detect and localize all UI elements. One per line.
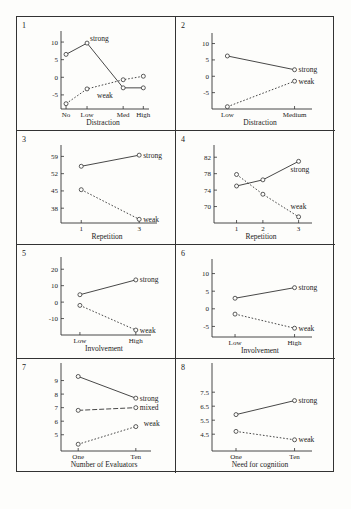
y-tick-label: -5: [203, 323, 209, 331]
series-line-strong: [235, 288, 295, 299]
x-axis-label: Involvement: [85, 344, 124, 353]
y-tick-label: 45: [51, 187, 59, 195]
x-tick-label: Low: [221, 111, 235, 119]
x-tick-label: No: [62, 111, 71, 119]
y-tick-label: 20: [51, 266, 59, 274]
series-label-strong: strong: [140, 394, 159, 403]
data-point-weak: [297, 215, 301, 219]
series-line-weak: [236, 431, 295, 439]
series-label-weak: weak: [299, 324, 315, 333]
y-tick-label: 10: [51, 39, 59, 47]
data-point-strong: [134, 396, 138, 400]
y-tick-label: -10: [49, 315, 59, 323]
series-line-weak: [235, 314, 295, 328]
series-line-strong: [236, 401, 295, 415]
y-tick-label: 70: [204, 203, 212, 211]
series-label-strong: strong: [291, 165, 310, 174]
x-axis-label: Involvement: [241, 346, 280, 355]
data-point-strong: [293, 68, 297, 72]
series-label-weak: weak: [299, 77, 315, 86]
x-axis-label: Distraction: [86, 118, 120, 127]
y-tick-label: 5: [55, 431, 59, 439]
y-tick-label: 6.5: [200, 403, 209, 411]
data-point-weak: [293, 438, 297, 442]
panel-4: 482787470123Repetitionstrongweak: [176, 131, 335, 245]
series-label-weak: weak: [291, 202, 307, 211]
y-tick-label: 5.5: [200, 417, 209, 425]
data-point-weak: [293, 79, 297, 83]
x-axis-label: Need for cognition: [232, 460, 289, 469]
y-tick-label: 52: [51, 170, 59, 178]
series-line-weak: [78, 427, 136, 445]
series-line-weak: [80, 305, 136, 330]
series-label-strong: strong: [299, 396, 318, 405]
series-line-strong: [66, 43, 143, 88]
y-tick-label: 38: [51, 205, 59, 213]
data-point-weak: [85, 87, 89, 91]
data-point-strong: [76, 374, 80, 378]
data-point-weak: [134, 425, 138, 429]
data-point-weak: [225, 105, 229, 109]
data-point-strong: [64, 52, 68, 56]
x-tick-label: High: [129, 337, 144, 345]
panel-number: 6: [181, 249, 185, 258]
y-tick-label: 78: [204, 170, 212, 178]
data-point-strong: [85, 41, 89, 45]
x-tick-label: 1: [235, 225, 239, 233]
y-tick-label: -5: [52, 91, 58, 99]
x-axis-label: Repetition: [91, 232, 122, 241]
chart-svg: 798765OneTenNumber of Evaluatorsstrongmi…: [17, 359, 176, 473]
panel-8: 87.56.55.54.5OneTenNeed for cognitionstr…: [176, 359, 335, 473]
data-point-weak: [293, 326, 297, 330]
data-point-strong: [235, 184, 239, 188]
y-tick-label: 10: [51, 282, 59, 290]
series-label-weak: weak: [144, 419, 160, 428]
series-label-strong: strong: [299, 283, 318, 292]
data-point-strong: [293, 286, 297, 290]
panel-7: 798765OneTenNumber of Evaluatorsstrongmi…: [17, 359, 176, 473]
y-tick-label: 7.5: [200, 389, 209, 397]
x-tick-label: Medium: [283, 111, 307, 119]
series-line-strong: [78, 376, 136, 398]
y-tick-label: 82: [204, 154, 212, 162]
y-tick-label: 5: [206, 56, 210, 64]
data-point-weak: [79, 188, 83, 192]
y-tick-label: 5: [206, 288, 210, 296]
y-tick-label: 4.5: [200, 431, 209, 439]
panel-number: 2: [181, 21, 185, 30]
data-point-weak: [235, 172, 239, 176]
data-point-weak: [76, 442, 80, 446]
series-label-weak: weak: [140, 326, 156, 335]
x-axis-label: Number of Evaluators: [71, 460, 138, 469]
panel-3: 35952453813Repetitionstrongweak: [17, 131, 176, 245]
chart-svg: 520100-10LowHighInvolvementstrongweak: [17, 245, 176, 359]
data-point-strong: [234, 413, 238, 417]
series-line-strong: [80, 280, 136, 295]
data-point-strong: [293, 399, 297, 403]
figure-frame: 11050-5NoLowMedHighDistractionstrongweak…: [16, 16, 334, 472]
data-point-weak: [137, 217, 141, 221]
x-axis-label: Repetition: [245, 232, 276, 241]
panel-number: 1: [22, 21, 26, 30]
series-line-weak: [237, 174, 299, 216]
series-line-mixed: [78, 408, 136, 411]
series-line-weak: [81, 190, 139, 220]
series-label-strong: strong: [143, 151, 162, 160]
x-tick-label: High: [136, 111, 151, 119]
series-label-mixed: mixed: [140, 403, 159, 412]
series-line-strong: [81, 155, 139, 166]
panel-2: 21050-5LowMediumDistractionstrongweak: [176, 17, 335, 131]
series-label-weak: weak: [97, 91, 113, 100]
panel-number: 8: [181, 363, 185, 372]
data-point-weak: [234, 429, 238, 433]
data-point-weak: [261, 192, 265, 196]
panel-number: 5: [22, 249, 26, 258]
x-tick-label: Ten: [289, 453, 300, 461]
panel-number: 3: [22, 135, 26, 144]
y-tick-label: 0: [206, 73, 210, 81]
y-tick-label: 0: [206, 305, 210, 313]
y-tick-label: 10: [202, 270, 210, 278]
panel-6: 61050-5LowHighInvolvementstrongweak: [176, 245, 335, 359]
series-line-strong: [227, 56, 294, 70]
y-tick-label: -5: [203, 89, 209, 97]
